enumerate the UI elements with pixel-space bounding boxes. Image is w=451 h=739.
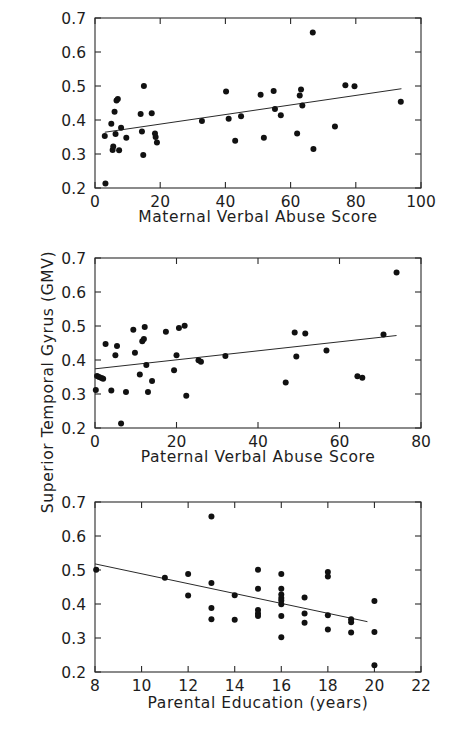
data-point	[163, 329, 169, 335]
scatter-panels-svg: 0204060801000.20.30.40.50.60.7Maternal V…	[0, 0, 451, 739]
data-point	[208, 616, 214, 622]
data-point	[261, 135, 267, 141]
data-point	[371, 598, 377, 604]
data-point	[348, 619, 354, 625]
data-point	[143, 362, 149, 368]
data-point	[140, 152, 146, 158]
x-tick-label: 100	[406, 193, 436, 211]
x-tick-label: 14	[225, 677, 245, 695]
figure-container: Superior Temporal Gyrus (GMV) 0204060801…	[0, 0, 451, 739]
data-point	[293, 354, 299, 360]
y-tick-label: 0.2	[61, 664, 86, 682]
data-point	[199, 118, 205, 124]
y-tick-label: 0.6	[61, 284, 86, 302]
data-point	[171, 367, 177, 373]
data-point	[381, 332, 387, 338]
data-point	[294, 131, 300, 137]
data-point	[255, 567, 261, 573]
x-tick-label: 18	[318, 677, 338, 695]
data-point	[118, 125, 124, 131]
scatter-panel-bottom: 8101214161820220.20.30.40.50.60.7Parenta…	[61, 494, 431, 712]
data-point	[278, 634, 284, 640]
y-tick-label: 0.6	[61, 44, 86, 62]
y-tick-label: 0.3	[61, 386, 86, 404]
data-point	[302, 611, 308, 617]
data-point	[132, 350, 138, 356]
data-point	[154, 139, 160, 145]
data-point	[100, 376, 106, 382]
data-point	[325, 627, 331, 633]
data-point	[271, 88, 277, 94]
data-point	[108, 388, 114, 394]
x-axis-title: Parental Education (years)	[148, 694, 369, 712]
data-point	[302, 595, 308, 601]
x-tick-label: 12	[178, 677, 198, 695]
data-point	[272, 106, 278, 112]
data-point	[138, 111, 144, 117]
y-axis-title: Superior Temporal Gyrus (GMV)	[34, 172, 62, 592]
y-tick-label: 0.4	[61, 352, 86, 370]
data-point	[223, 88, 229, 94]
data-point	[139, 129, 145, 135]
data-point	[302, 620, 308, 626]
data-point	[149, 110, 155, 116]
data-point	[278, 112, 284, 118]
data-point	[118, 421, 124, 427]
data-point	[323, 347, 329, 353]
data-point	[398, 99, 404, 105]
data-point	[185, 593, 191, 599]
x-tick-label: 20	[365, 677, 385, 695]
data-point	[278, 613, 284, 619]
y-tick-label: 0.2	[61, 180, 86, 198]
data-point	[174, 352, 180, 358]
data-point	[394, 270, 400, 276]
data-point	[145, 389, 151, 395]
data-point	[141, 336, 147, 342]
scatter-panel-top: 0204060801000.20.30.40.50.60.7Maternal V…	[61, 10, 435, 226]
data-point	[116, 147, 122, 153]
x-tick-label: 22	[411, 677, 431, 695]
y-tick-label: 0.5	[61, 78, 86, 96]
data-point	[182, 323, 188, 329]
data-point	[112, 109, 118, 115]
data-point	[123, 135, 129, 141]
data-point	[283, 379, 289, 385]
x-tick-label: 10	[132, 677, 152, 695]
data-point	[130, 327, 136, 333]
y-tick-label: 0.7	[61, 250, 86, 268]
data-point	[371, 662, 377, 668]
data-point	[114, 343, 120, 349]
x-tick-label: 80	[411, 433, 431, 451]
x-axis-title: Paternal Verbal Abuse Score	[141, 448, 376, 466]
data-point	[310, 146, 316, 152]
y-tick-label: 0.7	[61, 10, 86, 28]
x-tick-label: 0	[90, 193, 100, 211]
data-point	[310, 30, 316, 36]
scatter-panel-middle: 0204060800.20.30.40.50.60.7Paternal Verb…	[61, 250, 431, 466]
data-point	[110, 144, 116, 150]
y-tick-label: 0.2	[61, 420, 86, 438]
data-point	[103, 341, 109, 347]
data-point	[198, 359, 204, 365]
data-point	[149, 378, 155, 384]
data-point	[208, 605, 214, 611]
data-point	[153, 134, 159, 140]
y-tick-label: 0.5	[61, 562, 86, 580]
data-point	[302, 330, 308, 336]
data-point	[255, 613, 261, 619]
x-tick-label: 8	[90, 677, 100, 695]
data-point	[332, 123, 338, 129]
data-point	[298, 86, 304, 92]
data-point	[238, 113, 244, 119]
data-point	[222, 353, 228, 359]
y-tick-label: 0.4	[61, 596, 86, 614]
data-point	[93, 387, 99, 393]
data-point	[208, 514, 214, 520]
data-point	[342, 82, 348, 88]
data-point	[232, 138, 238, 144]
data-point	[359, 375, 365, 381]
y-tick-label: 0.3	[61, 146, 86, 164]
x-tick-label: 0	[90, 433, 100, 451]
y-tick-label: 0.3	[61, 630, 86, 648]
data-point	[176, 325, 182, 331]
